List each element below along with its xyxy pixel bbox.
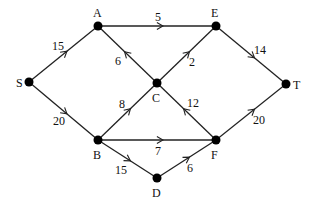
edge-line (216, 26, 286, 84)
node-dot (94, 22, 103, 31)
node-dot (153, 79, 162, 88)
node-label: T (293, 78, 301, 92)
labels-layer: SAECTBFD (16, 6, 301, 200)
node-d (153, 174, 162, 183)
node-dot (212, 22, 221, 31)
edge-weight-label: 8 (119, 97, 125, 111)
node-label: B (93, 148, 101, 162)
edge-line (98, 26, 157, 83)
edge-b-f: 7 (98, 137, 216, 159)
node-dot (282, 80, 291, 89)
edge-line (157, 83, 216, 140)
node-e (212, 22, 221, 31)
node-label: F (211, 148, 218, 162)
edge-c-a: 6 (98, 26, 157, 83)
edge-line (98, 140, 157, 178)
node-label: S (16, 76, 23, 90)
edge-e-t: 14 (216, 26, 286, 84)
node-dot (25, 78, 34, 87)
edge-s-a: 15 (29, 26, 98, 82)
edge-weight-label: 5 (155, 10, 161, 24)
edge-line (157, 26, 216, 83)
node-dot (153, 174, 162, 183)
edge-line (98, 83, 157, 140)
node-s (25, 78, 34, 87)
node-b (94, 136, 103, 145)
edge-weight-label: 2 (189, 55, 195, 69)
node-label: A (93, 6, 102, 20)
edge-f-t: 20 (216, 84, 286, 140)
node-f (212, 136, 221, 145)
node-label: D (152, 186, 161, 200)
edge-weight-label: 6 (187, 161, 193, 175)
edge-weight-label: 14 (254, 43, 266, 57)
node-t (282, 80, 291, 89)
edge-line (216, 84, 286, 140)
edge-b-d: 15 (98, 140, 157, 178)
edge-line (29, 26, 98, 82)
edge-f-c: 12 (157, 83, 216, 140)
edge-weight-label: 15 (115, 163, 127, 177)
edge-line (29, 82, 98, 140)
node-c (153, 79, 162, 88)
edge-weight-label: 12 (187, 96, 199, 110)
edge-weight-label: 7 (155, 144, 161, 158)
node-dot (94, 136, 103, 145)
edge-a-e: 5 (98, 10, 216, 30)
node-label: C (152, 91, 160, 105)
node-label: E (211, 6, 218, 20)
edge-d-f: 6 (157, 140, 216, 178)
edge-weight-label: 20 (53, 114, 65, 128)
edge-weight-label: 6 (115, 54, 121, 68)
edge-b-c: 8 (98, 83, 157, 140)
edge-c-e: 2 (157, 26, 216, 83)
edge-weight-label: 20 (253, 113, 265, 127)
node-dot (212, 136, 221, 145)
node-a (94, 22, 103, 31)
flow-network-diagram: 152056214812715620 SAECTBFD (0, 0, 312, 204)
edge-s-b: 20 (29, 82, 98, 140)
edge-weight-label: 15 (52, 39, 64, 53)
